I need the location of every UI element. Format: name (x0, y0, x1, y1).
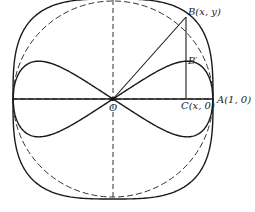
label-O: O (109, 102, 117, 113)
diagram-canvas: B(x, y) B′ C(x, 0) A(1, 0) O (0, 0, 255, 212)
label-B: B(x, y) (187, 6, 221, 17)
segment-OB (113, 17, 186, 99)
label-C: C(x, 0) (181, 100, 215, 111)
origin-point (111, 97, 115, 101)
label-A: A(1, 0) (216, 94, 251, 105)
label-B-prime: B′ (187, 55, 198, 66)
